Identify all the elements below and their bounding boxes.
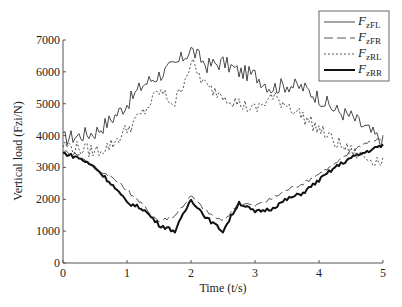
series-line-zrr [63,144,383,232]
y-tick-label: 2000 [36,192,60,206]
x-tick-label: 0 [60,266,66,280]
y-tick-label: 7000 [36,33,60,47]
y-tick-label: 0 [54,256,60,270]
x-axis-label: Time (t/s) [199,281,246,295]
series-line-zfr [63,137,383,221]
y-tick-label: 1000 [36,224,60,238]
y-tick-label: 5000 [36,97,60,111]
y-tick-label: 3000 [36,160,60,174]
x-tick-label: 4 [316,266,322,280]
x-tick-label: 3 [252,266,258,280]
y-tick-label: 6000 [36,65,60,79]
x-tick-label: 2 [188,266,194,280]
y-tick-label: 4000 [36,129,60,143]
x-tick-label: 5 [380,266,386,280]
y-axis-label: Vertical load (Fzi/N) [11,101,25,200]
x-tick-label: 1 [124,266,130,280]
chart: 012345 01000200030004000500060007000 Tim… [0,0,402,307]
legend: FzFLFzFRFzRLFzRR [319,11,389,81]
